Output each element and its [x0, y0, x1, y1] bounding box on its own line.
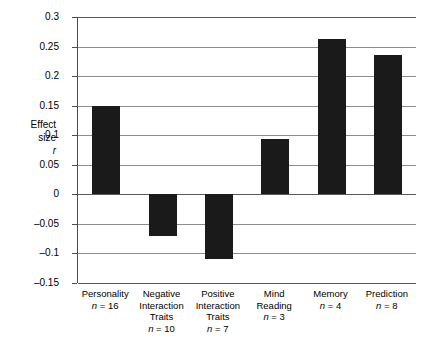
- category-name-line: Traits: [131, 311, 193, 323]
- y-axis-label: –0.05: [9, 219, 59, 229]
- category-name-line: Memory: [300, 288, 362, 300]
- gridline-0.15: [78, 106, 416, 107]
- category-name-line: Reading: [243, 300, 305, 312]
- gridline-0.2: [78, 76, 416, 77]
- category-name-line: Positive: [187, 288, 249, 300]
- category-name-line: Traits: [187, 311, 249, 323]
- x-axis-category-5: Memoryn = 4: [300, 288, 362, 311]
- bar: [205, 194, 233, 259]
- gridline-0.3: [78, 17, 416, 18]
- bar: [149, 194, 177, 236]
- y-axis-label: 0.3: [9, 12, 59, 22]
- category-sample-size: n = 7: [187, 323, 249, 335]
- bar: [318, 39, 346, 194]
- bar-chart-figure: Effect size r 0.30.250.20.150.10.050–0.0…: [0, 0, 427, 347]
- category-sample-size: n = 4: [300, 300, 362, 312]
- category-name-line: Negative: [131, 288, 193, 300]
- category-name-line: Interaction: [131, 300, 193, 312]
- category-sample-size: n = 3: [243, 311, 305, 323]
- category-name-line: Interaction: [187, 300, 249, 312]
- x-axis-category-6: Predictionn = 8: [356, 288, 418, 311]
- y-tick--0.15: [72, 283, 77, 284]
- y-tick-0.25: [72, 47, 77, 48]
- x-axis-category-4: MindReadingn = 3: [243, 288, 305, 323]
- gridline--0.1: [78, 253, 416, 254]
- gridline-0.25: [78, 47, 416, 48]
- y-axis-label: 0.05: [9, 160, 59, 170]
- y-tick-0.3: [72, 17, 77, 18]
- bar: [92, 106, 120, 195]
- bar: [261, 139, 289, 194]
- y-tick-0.05: [72, 165, 77, 166]
- y-tick--0.05: [72, 224, 77, 225]
- x-axis-category-3: PositiveInteractionTraitsn = 7: [187, 288, 249, 334]
- y-tick-0.2: [72, 76, 77, 77]
- category-sample-size: n = 10: [131, 323, 193, 335]
- bar: [374, 55, 402, 195]
- category-name-line: Personality: [74, 288, 136, 300]
- gridline--0.15: [78, 283, 416, 284]
- category-sample-size: n = 16: [74, 300, 136, 312]
- y-axis-label: 0.2: [9, 71, 59, 81]
- gridline-0: [78, 194, 416, 195]
- y-tick-0: [72, 194, 77, 195]
- y-axis-label: –0.1: [9, 248, 59, 258]
- y-axis-label: 0.25: [9, 42, 59, 52]
- gridline-0.05: [78, 165, 416, 166]
- y-axis-label: 0.1: [9, 130, 59, 140]
- y-axis-label: 0.15: [9, 101, 59, 111]
- category-name-line: Mind: [243, 288, 305, 300]
- plot-area: 0.30.250.20.150.10.050–0.05–0.1–0.15: [77, 17, 416, 283]
- y-axis-label: –0.15: [9, 278, 59, 288]
- gridline--0.05: [78, 224, 416, 225]
- y-axis-label: 0: [9, 189, 59, 199]
- x-axis-category-2: NegativeInteractionTraitsn = 10: [131, 288, 193, 334]
- y-axis-title-line3: r: [0, 144, 56, 157]
- y-tick-0.15: [72, 106, 77, 107]
- x-axis-category-labels: Personalityn = 16NegativeInteractionTrai…: [77, 288, 415, 347]
- gridline-0.1: [78, 135, 416, 136]
- category-name-line: Prediction: [356, 288, 418, 300]
- category-sample-size: n = 8: [356, 300, 418, 312]
- x-axis-category-1: Personalityn = 16: [74, 288, 136, 311]
- y-tick--0.1: [72, 253, 77, 254]
- y-tick-0.1: [72, 135, 77, 136]
